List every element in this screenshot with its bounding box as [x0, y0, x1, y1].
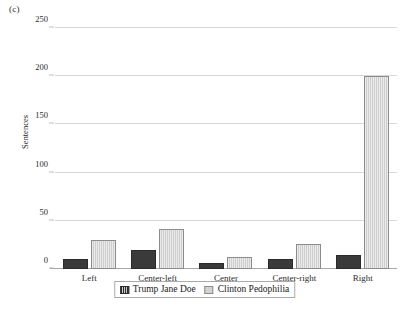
y-axis-title: Sentences [20, 77, 30, 187]
legend-entry: Clinton Pedophilia [205, 284, 290, 295]
bar [159, 229, 184, 269]
y-tick-mark [49, 75, 54, 76]
chart-legend: Trump Jane DoeClinton Pedophilia [114, 281, 296, 298]
bar [199, 263, 224, 269]
bar [91, 240, 116, 269]
bar [131, 250, 156, 269]
y-tick-mark [49, 171, 54, 172]
bar-group: Center-left [123, 28, 191, 269]
y-tick-label: 100 [35, 159, 48, 168]
legend-label: Clinton Pedophilia [218, 284, 290, 295]
y-tick-mark [49, 123, 54, 124]
y-tick-label: 0 [44, 256, 48, 265]
y-tick-label: 50 [40, 207, 49, 216]
bar-group: Right [329, 28, 397, 269]
bar [268, 259, 293, 269]
bar [227, 257, 252, 269]
y-tick-label: 250 [35, 15, 48, 24]
y-tick-label: 200 [35, 63, 48, 72]
bar-group: Center-right [260, 28, 328, 269]
bar-group: Center [192, 28, 260, 269]
plot-area: 050100150200250 LeftCenter-leftCenterCen… [55, 28, 397, 269]
panel-letter: (c) [9, 4, 20, 15]
y-tick-label: 150 [35, 111, 48, 120]
legend-entry: Trump Jane Doe [120, 284, 196, 295]
y-tick-mark [49, 27, 54, 28]
bar [364, 76, 389, 269]
bar-group: Left [55, 28, 123, 269]
legend-label: Trump Jane Doe [133, 284, 196, 295]
series-a-swatch [120, 286, 129, 294]
x-tick-label: Right [329, 273, 397, 284]
figure-panel: (c) Sentences 050100150200250 LeftCenter… [0, 0, 409, 309]
bar [63, 259, 88, 269]
y-tick-mark [49, 219, 54, 220]
series-b-swatch [205, 286, 214, 294]
bar [296, 244, 321, 269]
bar [336, 255, 361, 269]
